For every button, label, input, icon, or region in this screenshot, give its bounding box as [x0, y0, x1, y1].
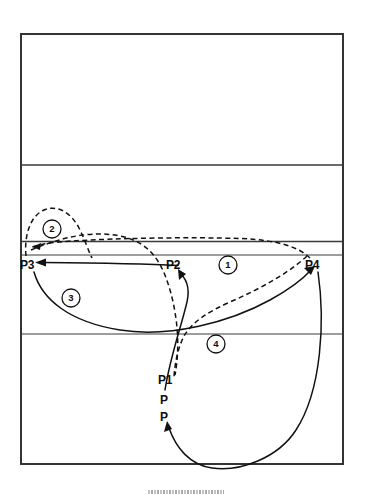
player-label-p-lower: P	[160, 411, 168, 423]
player-label-p-middle: P	[160, 394, 168, 406]
court-svg	[0, 0, 367, 502]
step-number-1: 1	[219, 260, 237, 270]
player-label-p3: P3	[20, 259, 34, 271]
play-diagram: P3 P2 P4 P1 P P 1 2 3 4	[0, 0, 367, 502]
player-label-p4: P4	[305, 259, 319, 271]
solid-path-p2-to-p3-arrowhead	[35, 259, 46, 267]
player-label-p1: P1	[158, 374, 172, 386]
player-label-p2: P2	[166, 259, 180, 271]
step-number-3: 3	[62, 293, 80, 303]
court-outline	[21, 34, 343, 464]
cropped-caption-artifact	[148, 490, 224, 494]
dashed-path-p4-to-center	[174, 256, 307, 377]
step-number-2: 2	[43, 224, 61, 234]
step-number-4: 4	[207, 339, 225, 349]
solid-path-p2-to-p3	[44, 263, 178, 266]
solid-path-p4-to-p	[169, 272, 321, 469]
